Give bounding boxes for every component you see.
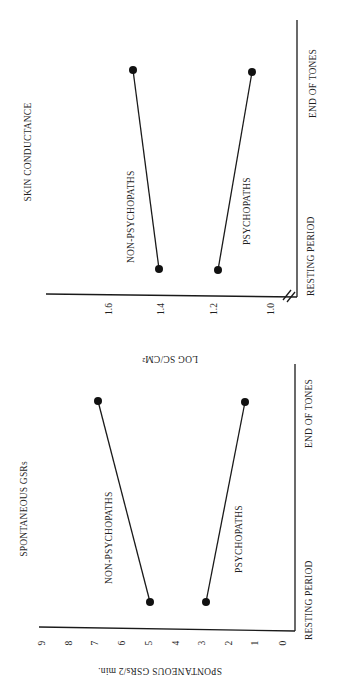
skin-conductance-chart: SKIN CONDUCTANCE 1.6 1.4 1.2 1.0 RESTING… [23, 20, 318, 315]
tick-label: 0 [278, 640, 288, 645]
series-line-non-psychopaths [133, 70, 159, 269]
y-axis-label-gsr: SPONTANEOUS GSRs/2 min. [98, 666, 222, 676]
tick-label: 5 [144, 640, 154, 645]
tick-label: 2 [224, 640, 234, 645]
y-axis [39, 627, 295, 631]
series-label-psychopaths: PSYCHOPATHS [242, 177, 252, 245]
tick-label: 8 [64, 640, 74, 645]
chart-title: SKIN CONDUCTANCE [23, 103, 33, 202]
spontaneous-gsr-chart: SPONTANEOUS GSRs 9 8 7 6 5 4 3 2 1 0 SPO… [19, 364, 314, 676]
tick-label: 9 [37, 640, 47, 645]
series-label-non-psychopaths: NON-PSYCHOPATHS [126, 171, 136, 263]
data-point [129, 66, 137, 74]
y-axis-label-log-sc: LOG SC/CM² [142, 354, 198, 364]
series-label-non-psychopaths: NON-PSYCHOPATHS [104, 492, 114, 584]
tick-label: 7 [90, 640, 100, 645]
figure: SKIN CONDUCTANCE 1.6 1.4 1.2 1.0 RESTING… [0, 0, 340, 699]
tick-label: 6 [117, 640, 127, 645]
x-label-end: END OF TONES [308, 49, 318, 118]
x-label-resting: RESTING PERIOD [306, 216, 316, 296]
tick-label: 3 [197, 640, 207, 645]
x-label-resting: RESTING PERIOD [304, 560, 314, 640]
data-point [248, 68, 256, 76]
tick-label: 1.0 [266, 303, 276, 315]
series-label-psychopaths: PSYCHOPATHS [234, 505, 244, 573]
data-point [155, 265, 163, 273]
data-point [214, 266, 222, 274]
tick-label: 1.6 [104, 303, 114, 315]
data-point [94, 397, 102, 405]
data-point [146, 598, 154, 606]
tick-label: 1.4 [156, 303, 166, 315]
axis-break-icon [283, 290, 295, 302]
tick-label: 1.2 [209, 303, 219, 315]
data-point [241, 398, 249, 406]
x-label-end: END OF TONES [304, 379, 314, 448]
tick-label: 1 [250, 640, 260, 645]
tick-label: 4 [171, 640, 181, 645]
data-point [202, 598, 210, 606]
chart-title: SPONTANEOUS GSRs [19, 461, 29, 557]
y-axis [46, 294, 297, 297]
